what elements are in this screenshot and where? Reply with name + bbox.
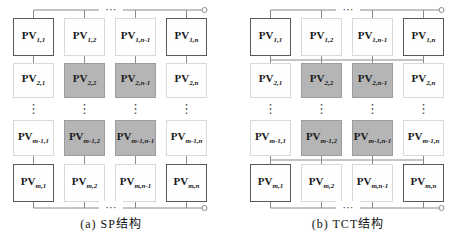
pv-module-tct-2,1: PV2,1 — [250, 63, 291, 98]
pv-module-tct-m-1,2: PVm-1,2 — [301, 120, 342, 156]
pv-module-sp-1,n-1: PV1,n-1 — [115, 18, 156, 56]
pv-module-label: PV1,2 — [73, 30, 96, 44]
bottom-bus-ellipsis: ⋯ — [99, 201, 123, 215]
diagram-sp-structure: PV1,1PV1,2PV1,n-1PV1,nPV2,1PV2,2PV2,n-1P… — [13, 2, 209, 214]
column-ellipsis: ⋮ — [64, 98, 105, 120]
pv-module-sp-1,1: PV1,1 — [13, 18, 54, 56]
pv-module-label: PV1,n — [412, 30, 436, 44]
pv-module-sp-2,1: PV2,1 — [13, 63, 54, 98]
caption-sp: (a) SP结构 — [13, 214, 209, 232]
pv-module-label: PVm-1,n — [171, 131, 203, 145]
pv-module-sp-m-1,2: PVm-1,2 — [64, 120, 105, 156]
pv-module-label: PV1,n-1 — [358, 30, 388, 44]
pv-module-label: PVm,2 — [72, 176, 97, 190]
pv-module-tct-2,n-1: PV2,n-1 — [352, 63, 393, 98]
pv-module-tct-m,n-1: PVm,n-1 — [352, 164, 393, 202]
pv-module-label: PVm,n — [174, 176, 200, 190]
pv-module-sp-m-1,n-1: PVm-1,n-1 — [115, 120, 156, 156]
pv-module-sp-1,n: PV1,n — [166, 18, 207, 56]
pv-module-label: PVm,n-1 — [357, 176, 389, 190]
pv-module-label: PV2,1 — [22, 73, 45, 87]
pv-module-sp-m,n-1: PVm,n-1 — [115, 164, 156, 202]
pv-module-tct-m-1,n-1: PVm-1,n-1 — [352, 120, 393, 156]
pv-module-label: PVm-1,2 — [69, 131, 100, 145]
pv-module-label: PV1,n — [175, 30, 199, 44]
pv-module-label: PVm-1,1 — [255, 131, 286, 145]
pv-module-tct-m,1: PVm,1 — [250, 164, 291, 202]
pv-module-sp-m,2: PVm,2 — [64, 164, 105, 202]
pv-module-tct-2,2: PV2,2 — [301, 63, 342, 98]
pv-module-label: PVm,1 — [258, 176, 283, 190]
pv-module-sp-m,n: PVm,n — [166, 164, 207, 202]
pv-module-tct-2,n: PV2,n — [403, 63, 444, 98]
pv-module-label: PV1,1 — [22, 30, 45, 44]
pv-module-tct-m,2: PVm,2 — [301, 164, 342, 202]
column-ellipsis: ⋮ — [250, 98, 291, 120]
top-bus-ellipsis: ⋯ — [336, 3, 360, 17]
pv-module-label: PV1,n-1 — [121, 30, 151, 44]
pv-module-sp-m-1,n: PVm-1,n — [166, 120, 207, 156]
pv-module-sp-m-1,1: PVm-1,1 — [13, 120, 54, 156]
pv-module-label: PV1,1 — [259, 30, 282, 44]
pv-module-label: PV2,n — [412, 73, 436, 87]
pv-module-sp-2,n: PV2,n — [166, 63, 207, 98]
pv-module-tct-1,n-1: PV1,n-1 — [352, 18, 393, 56]
pv-module-sp-m,1: PVm,1 — [13, 164, 54, 202]
pv-module-label: PVm,n-1 — [120, 176, 152, 190]
pv-module-label: PVm-1,2 — [306, 131, 337, 145]
pv-module-label: PVm-1,n — [408, 131, 440, 145]
pv-module-label: PV2,n — [175, 73, 199, 87]
pv-module-tct-m,n: PVm,n — [403, 164, 444, 202]
column-ellipsis: ⋮ — [115, 98, 156, 120]
pv-module-label: PVm,1 — [21, 176, 46, 190]
pv-module-label: PV2,2 — [310, 73, 333, 87]
column-ellipsis: ⋮ — [166, 98, 207, 120]
pv-module-label: PV1,2 — [310, 30, 333, 44]
pv-module-tct-m-1,n: PVm-1,n — [403, 120, 444, 156]
positive-terminal-icon — [439, 8, 444, 13]
pv-module-sp-1,2: PV1,2 — [64, 18, 105, 56]
pv-module-tct-1,n: PV1,n — [403, 18, 444, 56]
pv-module-label: PVm-1,n-1 — [354, 131, 391, 145]
pv-module-tct-m-1,1: PVm-1,1 — [250, 120, 291, 156]
pv-module-label: PVm,2 — [309, 176, 334, 190]
pv-module-label: PV2,1 — [259, 73, 282, 87]
diagram-tct-structure: PV1,1PV1,2PV1,n-1PV1,nPV2,1PV2,2PV2,n-1P… — [250, 2, 446, 214]
pv-module-label: PV2,2 — [73, 73, 96, 87]
column-ellipsis: ⋮ — [13, 98, 54, 120]
pv-module-label: PVm-1,1 — [18, 131, 49, 145]
negative-terminal-icon — [439, 206, 444, 211]
column-ellipsis: ⋮ — [352, 98, 393, 120]
pv-module-sp-2,2: PV2,2 — [64, 63, 105, 98]
figure-canvas: PV1,1PV1,2PV1,n-1PV1,nPV2,1PV2,2PV2,n-1P… — [0, 0, 453, 239]
pv-module-sp-2,n-1: PV2,n-1 — [115, 63, 156, 98]
column-ellipsis: ⋮ — [403, 98, 444, 120]
pv-module-tct-1,2: PV1,2 — [301, 18, 342, 56]
negative-terminal-icon — [202, 206, 207, 211]
bottom-bus-ellipsis: ⋯ — [336, 201, 360, 215]
pv-module-label: PV2,n-1 — [358, 73, 388, 87]
pv-module-label: PV2,n-1 — [121, 73, 151, 87]
pv-module-label: PVm,n — [411, 176, 437, 190]
caption-tct: (b) TCT结构 — [250, 214, 446, 232]
top-bus-ellipsis: ⋯ — [99, 3, 123, 17]
pv-module-tct-1,1: PV1,1 — [250, 18, 291, 56]
positive-terminal-icon — [202, 8, 207, 13]
pv-module-label: PVm-1,n-1 — [117, 131, 154, 145]
column-ellipsis: ⋮ — [301, 98, 342, 120]
